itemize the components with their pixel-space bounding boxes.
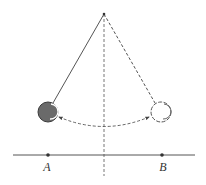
string-solid (53, 14, 104, 103)
bob-solid (38, 102, 58, 122)
bob-ghost (151, 102, 171, 122)
string-dashed (104, 14, 155, 103)
point-a-dot (46, 153, 50, 157)
pendulum-diagram: A B (0, 0, 206, 185)
label-a: A (42, 160, 51, 174)
pivot-point (103, 13, 106, 16)
label-b: B (159, 160, 167, 174)
point-b-dot (160, 153, 164, 157)
